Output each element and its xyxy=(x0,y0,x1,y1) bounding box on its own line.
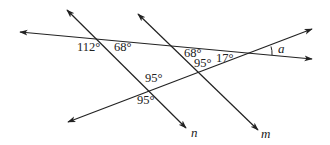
angle-95-upper-m-label: 95° xyxy=(194,56,212,70)
angle-95-lower-n-label: 95° xyxy=(137,93,155,107)
angle-95-upper-n-label: 95° xyxy=(145,71,163,85)
line-n xyxy=(67,10,186,128)
line-m-label: m xyxy=(261,126,270,141)
angle-112-label: 112° xyxy=(77,40,100,54)
angle-a-label: a xyxy=(278,41,285,56)
angle-a-arc xyxy=(271,47,272,56)
line-n-label: n xyxy=(191,125,198,140)
rising-line xyxy=(68,29,312,122)
diagram-canvas: 112° 68° 68° 95° 17° 95° 95° a n m xyxy=(0,0,330,145)
geometry-diagram: 112° 68° 68° 95° 17° 95° 95° a n m xyxy=(0,0,330,145)
angle-17-label: 17° xyxy=(216,51,234,65)
angle-68-left-label: 68° xyxy=(114,40,132,54)
